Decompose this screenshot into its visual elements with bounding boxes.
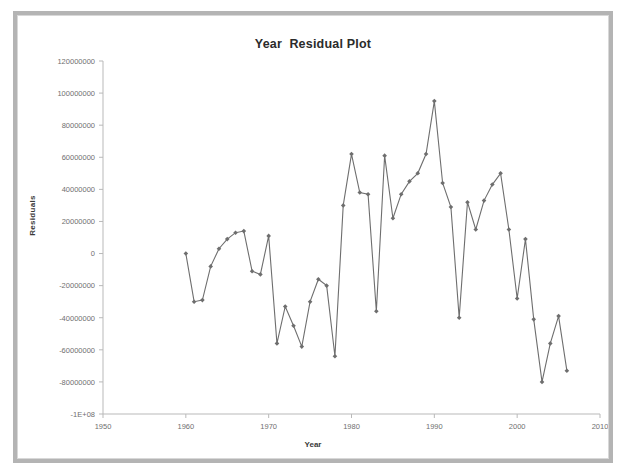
residual-series-line: [186, 101, 567, 382]
data-point-marker: [366, 192, 371, 197]
data-point-marker: [382, 153, 387, 158]
data-point-marker: [440, 181, 445, 186]
data-point-marker: [349, 152, 354, 157]
data-point-marker: [300, 344, 305, 349]
x-tick-label: 2000: [509, 422, 526, 431]
x-tick-label: 1980: [343, 422, 360, 431]
y-tick-label: 100000000: [57, 89, 95, 98]
data-point-marker: [507, 227, 512, 232]
data-point-marker: [200, 298, 205, 303]
data-point-marker: [473, 227, 478, 232]
data-point-marker: [523, 237, 528, 242]
data-point-marker: [565, 368, 570, 373]
data-point-marker: [457, 315, 462, 320]
x-tick-label: 1990: [426, 422, 443, 431]
residual-plot-svg: -1E+08-80000000-60000000-40000000-200000…: [17, 15, 609, 459]
data-point-marker: [449, 205, 454, 210]
y-tick-label: 40000000: [62, 185, 95, 194]
y-axis-title: Residuals: [28, 181, 37, 251]
x-tick-label: 1950: [95, 422, 112, 431]
data-point-marker: [283, 304, 288, 309]
data-point-marker: [432, 99, 437, 104]
data-point-marker: [531, 317, 536, 322]
data-point-marker: [391, 216, 396, 221]
y-tick-label: 80000000: [62, 121, 95, 130]
data-point-marker: [258, 272, 263, 277]
data-point-marker: [515, 296, 520, 301]
data-point-marker: [374, 309, 379, 314]
data-point-marker: [242, 229, 247, 234]
y-tick-label: 120000000: [57, 57, 95, 66]
data-point-marker: [424, 152, 429, 157]
y-tick-label: 0: [91, 249, 95, 258]
data-point-marker: [482, 198, 487, 203]
y-tick-label: -40000000: [59, 314, 95, 323]
data-point-marker: [184, 251, 189, 256]
data-point-marker: [275, 341, 280, 346]
residual-series-markers: [184, 99, 570, 384]
data-point-marker: [192, 299, 197, 304]
data-point-marker: [556, 314, 561, 319]
data-point-marker: [465, 200, 470, 205]
x-tick-label: 1960: [177, 422, 194, 431]
y-tick-label: 60000000: [62, 153, 95, 162]
data-point-marker: [333, 354, 338, 359]
chart-frame: Year Residual Plot -1E+08-80000000-60000…: [13, 11, 613, 463]
data-point-marker: [548, 341, 553, 346]
data-point-marker: [308, 299, 313, 304]
x-axis-ticks: 1950196019701980199020002010: [95, 414, 609, 431]
chart-plot-container: Year Residual Plot -1E+08-80000000-60000…: [17, 15, 609, 459]
data-point-marker: [341, 203, 346, 208]
y-tick-label: -60000000: [59, 346, 95, 355]
data-point-marker: [266, 234, 271, 239]
x-tick-label: 1970: [260, 422, 277, 431]
data-point-marker: [250, 269, 255, 274]
data-point-marker: [291, 323, 296, 328]
y-tick-label: 20000000: [62, 217, 95, 226]
screenshot-root: Year Residual Plot -1E+08-80000000-60000…: [0, 0, 626, 475]
x-tick-label: 2010: [592, 422, 609, 431]
data-point-marker: [357, 190, 362, 195]
y-tick-label: -80000000: [59, 378, 95, 387]
y-axis-ticks: -1E+08-80000000-60000000-40000000-200000…: [57, 57, 103, 419]
x-axis-title: Year: [17, 440, 609, 449]
y-tick-label: -20000000: [59, 281, 95, 290]
data-point-marker: [540, 380, 545, 385]
y-tick-label: -1E+08: [71, 410, 95, 419]
data-point-marker: [208, 264, 213, 269]
